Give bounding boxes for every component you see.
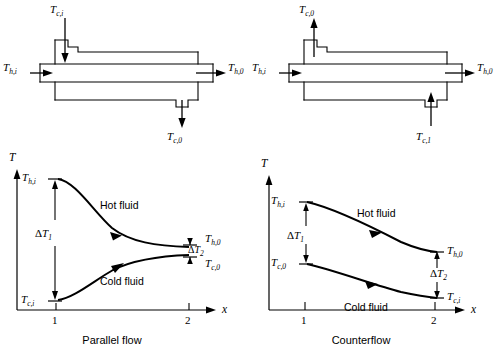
cold-outlet-arrowhead [178, 118, 185, 128]
parallel-flow-chart-drawing [0, 150, 250, 352]
hot-inlet-arrowhead [43, 69, 53, 76]
dT1-arrowhead-up [52, 180, 58, 189]
y-axis-arrowhead [14, 169, 21, 179]
chart1-cold-in-label: Tc,i [21, 294, 34, 308]
chart2-tick-label-1: 1 [301, 315, 307, 326]
hot-outlet-arrowhead [465, 69, 475, 76]
chart1-hot-fluid-label: Hot fluid [100, 200, 139, 211]
chart1-dT1-label: ΔT1 [35, 228, 52, 242]
chart1-dT2-label: ΔT2 [188, 245, 204, 258]
hot-inlet-arrowhead [292, 69, 302, 76]
x-axis-label: x [471, 304, 476, 316]
chart2-hot-in-label: Th,i [271, 195, 285, 209]
chart1-hot-out-label: Th,0 [205, 233, 221, 247]
counterflow-schematic: Tc,0 Th,i Th,0 Tc,1 [249, 0, 499, 150]
x-axis-arrowhead [206, 306, 216, 313]
chart1-cold-fluid-label: Cold fluid [100, 276, 144, 287]
chart2-hot-fluid-label: Hot fluid [357, 208, 396, 219]
x-axis-label: x [222, 304, 227, 316]
schematic1-cold-in-label: Tc,i [50, 4, 63, 18]
cold-outlet-arrowhead [310, 18, 317, 28]
schematic2-hot-out-label: Th,0 [477, 62, 493, 76]
y-axis-label: T [261, 158, 267, 170]
dT1-arrowhead-up [303, 203, 309, 211]
schematic1-hot-out-label: Th,0 [228, 62, 244, 76]
cold-fluid-curve-arrowhead [111, 263, 124, 273]
hot-fluid-curve [58, 179, 189, 247]
chart2-cold-in-label: Tc,i [447, 291, 460, 305]
counterflow-schematic-drawing [249, 0, 499, 150]
parallel-flow-schematic-drawing [0, 0, 250, 150]
chart2-tick-label-2: 2 [431, 315, 437, 326]
cold-fluid-curve [307, 264, 437, 298]
counterflow-chart: T x Th,i Tc,0 ΔT1 ΔT2 Th,0 Tc,i Hot flui… [249, 150, 499, 352]
schematic1-cold-out-label: Tc,0 [167, 131, 182, 145]
chart2-caption: Counterflow [249, 335, 473, 346]
chart2-cold-fluid-label: Cold fluid [344, 302, 388, 313]
chart1-tick-label-1: 1 [52, 315, 58, 326]
heat-exchanger-figure: Tc,i Th,i Th,0 Tc,0 [0, 0, 499, 352]
chart1-caption: Parallel flow [0, 335, 224, 346]
chart2-cold-out-label: Tc,0 [271, 257, 286, 271]
schematic2-hot-in-label: Th,i [252, 62, 266, 76]
parallel-flow-schematic: Tc,i Th,i Th,0 Tc,0 [0, 0, 250, 150]
dT2-arrowhead-down [187, 257, 193, 264]
parallel-flow-chart: T x Th,i Tc,i ΔT1 ΔT2 Th,0 Tc,0 Hot flui… [0, 150, 250, 352]
chart2-dT2-label: ΔT2 [430, 268, 447, 282]
chart1-hot-in-label: Th,i [22, 172, 36, 186]
cold-inlet-arrowhead [61, 53, 68, 63]
dT1-arrowhead-down [303, 255, 309, 263]
chart2-dT1-label: ΔT1 [287, 230, 304, 244]
schematic2-cold-in-label: Tc,1 [416, 131, 431, 145]
y-axis-label: T [9, 152, 15, 164]
dT1-arrowhead-down [52, 291, 58, 300]
chart1-cold-out-label: Tc,0 [205, 258, 220, 272]
x-axis-arrowhead [455, 306, 465, 313]
schematic1-hot-in-label: Th,i [3, 62, 17, 76]
chart2-hot-out-label: Th,0 [447, 245, 463, 259]
chart1-tick-label-2: 2 [185, 315, 191, 326]
hot-outlet-arrowhead [216, 69, 226, 76]
y-axis-arrowhead [266, 175, 273, 185]
cold-inlet-arrowhead [427, 92, 434, 102]
schematic2-cold-out-label: Tc,0 [299, 4, 314, 18]
